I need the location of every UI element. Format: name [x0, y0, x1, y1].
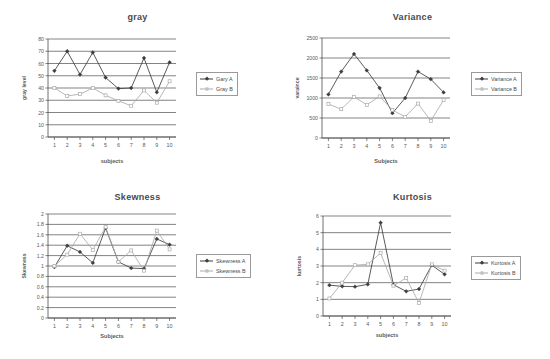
y-tick-label: 0.2 [22, 305, 44, 311]
x-tick-label: 2 [335, 143, 347, 149]
chart-panel-gray: graygray levelsubjects010203040506070801… [0, 0, 275, 179]
x-axis-label: Subjects [48, 333, 176, 339]
legend-item-b[interactable]: Kurtosis B [475, 270, 516, 276]
diamond-marker-icon [475, 260, 488, 266]
legend-item-a[interactable]: Variance A [475, 76, 517, 82]
plot-area [48, 214, 184, 326]
x-tick-label: 6 [112, 323, 124, 329]
y-tick-label: 1.6 [22, 232, 44, 238]
legend-item-b[interactable]: Variance B [475, 86, 517, 92]
x-tick-label: 9 [425, 143, 437, 149]
chart-panel-kurtosis: Kurtosiskurtosissubjects0123456123456789… [275, 180, 550, 359]
legend-item-a[interactable]: Gary A [200, 76, 233, 82]
x-tick-label: 3 [349, 321, 361, 327]
y-tick-label: 1500 [296, 75, 318, 81]
y-tick-label: 40 [22, 85, 44, 91]
y-tick-label: 1000 [296, 95, 318, 101]
diamond-marker-icon [200, 258, 213, 264]
x-tick-label: 5 [374, 143, 386, 149]
y-tick-label: 0.4 [22, 294, 44, 300]
legend-label: Skewness B [216, 268, 246, 274]
y-tick-label: 0 [297, 313, 319, 319]
y-tick-label: 4 [297, 246, 319, 252]
chart-panel-skewness: SkewnessSkewnessSubjects00.20.40.60.811.… [0, 180, 275, 359]
plot-area [322, 38, 458, 146]
x-tick-label: 2 [336, 321, 348, 327]
y-tick-label: 6 [297, 213, 319, 219]
plot-area [48, 39, 184, 145]
y-tick-label: 60 [22, 61, 44, 67]
square-marker-icon [475, 86, 488, 92]
y-tick-label: 5 [297, 230, 319, 236]
square-marker-icon [200, 86, 213, 92]
chart-title: Skewness [0, 192, 275, 202]
y-tick-label: 1.8 [22, 221, 44, 227]
x-tick-label: 5 [100, 142, 112, 148]
square-marker-icon [200, 268, 213, 274]
legend-item-a[interactable]: Skewness A [200, 258, 246, 264]
y-tick-label: 0.6 [22, 284, 44, 290]
legend-label: Kurtosis B [491, 270, 516, 276]
x-tick-label: 2 [61, 323, 73, 329]
y-tick-label: 1 [22, 263, 44, 269]
y-tick-label: 1 [297, 296, 319, 302]
chart-title: gray [0, 12, 275, 22]
chart-legend: Kurtosis AKurtosis B [471, 256, 521, 280]
y-tick-label: 0.8 [22, 273, 44, 279]
x-axis-label: subjects [323, 332, 451, 338]
y-tick-label: 1.2 [22, 253, 44, 259]
chart-title: Variance [275, 12, 550, 22]
x-tick-label: 4 [361, 143, 373, 149]
x-tick-label: 8 [138, 323, 150, 329]
y-tick-label: 0 [22, 134, 44, 140]
chart-legend: Skewness ASkewness B [196, 254, 251, 278]
x-tick-label: 5 [375, 321, 387, 327]
legend-label: Kurtosis A [491, 260, 515, 266]
y-tick-label: 20 [22, 110, 44, 116]
chart-title: Kurtosis [275, 192, 550, 202]
legend-label: Variance B [491, 86, 517, 92]
x-tick-label: 8 [138, 142, 150, 148]
y-tick-label: 500 [296, 115, 318, 121]
x-tick-label: 3 [348, 143, 360, 149]
x-tick-label: 7 [125, 323, 137, 329]
chart-panel-variance: VariancevarainceSubjects0500100015002000… [275, 0, 550, 179]
x-tick-label: 8 [412, 143, 424, 149]
x-tick-label: 3 [74, 142, 86, 148]
series-line-b [329, 253, 444, 303]
y-tick-label: 0 [296, 135, 318, 141]
x-tick-label: 10 [438, 143, 450, 149]
diamond-marker-icon [475, 76, 488, 82]
x-tick-label: 7 [125, 142, 137, 148]
x-tick-label: 3 [74, 323, 86, 329]
x-tick-label: 9 [151, 142, 163, 148]
x-tick-label: 1 [48, 323, 60, 329]
x-tick-label: 1 [322, 143, 334, 149]
x-tick-label: 9 [151, 323, 163, 329]
x-tick-label: 6 [386, 143, 398, 149]
y-tick-label: 80 [22, 36, 44, 42]
x-axis-label: subjects [48, 158, 176, 164]
series-line-a [54, 51, 169, 92]
series-line-a [54, 228, 169, 269]
legend-label: Gary A [216, 76, 232, 82]
y-tick-label: 10 [22, 122, 44, 128]
legend-item-b[interactable]: Gray B [200, 86, 233, 92]
x-axis-label: Subjects [322, 158, 450, 164]
x-tick-label: 10 [164, 323, 176, 329]
x-tick-label: 1 [323, 321, 335, 327]
y-tick-label: 1.4 [22, 242, 44, 248]
x-tick-label: 2 [61, 142, 73, 148]
y-tick-label: 3 [297, 263, 319, 269]
legend-item-a[interactable]: Kurtosis A [475, 260, 516, 266]
y-tick-label: 2 [22, 211, 44, 217]
x-tick-label: 10 [164, 142, 176, 148]
chart-grid: graygray levelsubjects010203040506070801… [0, 0, 550, 359]
legend-label: Skewness A [216, 258, 245, 264]
legend-item-b[interactable]: Skewness B [200, 268, 246, 274]
plot-area [323, 216, 459, 324]
x-tick-label: 4 [87, 142, 99, 148]
x-tick-label: 5 [100, 323, 112, 329]
y-tick-label: 30 [22, 97, 44, 103]
chart-legend: Gary AGray B [196, 72, 238, 96]
